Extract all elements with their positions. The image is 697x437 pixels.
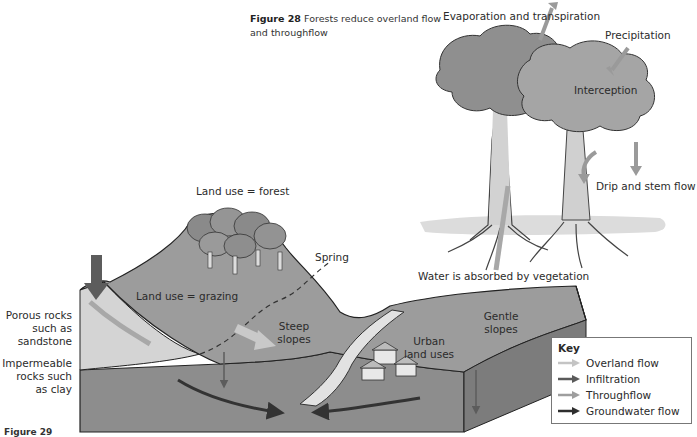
key-label: Groundwater flow xyxy=(586,403,680,419)
label-spring: Spring xyxy=(315,251,349,264)
key-item-throughflow: Throughflow xyxy=(558,387,685,403)
porous-line2: such as xyxy=(0,322,72,335)
label-steep-slopes: Steep slopes xyxy=(274,320,314,346)
label-gentle-slopes: Gentle slopes xyxy=(476,310,526,336)
throughflow-arrow-icon xyxy=(558,390,580,400)
label-land-use-forest: Land use = forest xyxy=(196,185,289,198)
key-label: Overland flow xyxy=(586,355,659,371)
figure-title-line2: and throughflow xyxy=(250,27,328,38)
impermeable-line3: as clay xyxy=(0,383,72,396)
key-legend: Key Overland flow Infiltration Throughfl… xyxy=(551,337,692,424)
key-item-infiltration: Infiltration xyxy=(558,371,685,387)
impermeable-line1: Impermeable xyxy=(0,357,72,370)
left-trunk xyxy=(489,110,511,225)
label-porous-rocks: Porous rocks such as sandstone xyxy=(0,309,72,348)
overland-flow-arrow-icon xyxy=(558,358,580,368)
key-item-groundwater-flow: Groundwater flow xyxy=(558,403,685,419)
impermeable-line2: rocks such xyxy=(0,370,72,383)
key-label: Throughflow xyxy=(586,387,651,403)
bottom-figure-caption: Figure 29 xyxy=(4,427,52,437)
label-water-absorbed: Water is absorbed by vegetation xyxy=(418,270,589,283)
figure-title-line1: Forests reduce overland flow xyxy=(304,13,441,24)
label-land-use-grazing: Land use = grazing xyxy=(136,290,238,303)
porous-line3: sandstone xyxy=(0,335,72,348)
infiltration-arrow-icon xyxy=(558,374,580,384)
steep-line1: Steep xyxy=(274,320,314,333)
figure-number: Figure 28 xyxy=(250,13,301,24)
label-impermeable-rocks: Impermeable rocks such as clay xyxy=(0,357,72,396)
gentle-line2: slopes xyxy=(476,323,526,336)
infiltration-arrow-main xyxy=(91,255,102,285)
urban-line2: land uses xyxy=(404,348,454,361)
key-label: Infiltration xyxy=(586,371,640,387)
label-interception: Interception xyxy=(574,84,637,97)
label-drip-stem-flow: Drip and stem flow xyxy=(596,180,696,193)
gentle-line1: Gentle xyxy=(476,310,526,323)
urban-line1: Urban xyxy=(404,335,454,348)
ground-patch xyxy=(420,215,665,235)
label-precipitation: Precipitation xyxy=(605,29,671,42)
label-evaporation: Evaporation and transpiration xyxy=(443,10,600,23)
figure-title: Figure 28 Forests reduce overland flow a… xyxy=(250,12,441,40)
key-title: Key xyxy=(558,342,685,354)
porous-line1: Porous rocks xyxy=(0,309,72,322)
label-urban-land-uses: Urban land uses xyxy=(404,335,454,361)
tree-diagram xyxy=(420,2,665,270)
groundwater-flow-arrow-icon xyxy=(558,406,580,416)
key-item-overland-flow: Overland flow xyxy=(558,355,685,371)
steep-line2: slopes xyxy=(274,333,314,346)
